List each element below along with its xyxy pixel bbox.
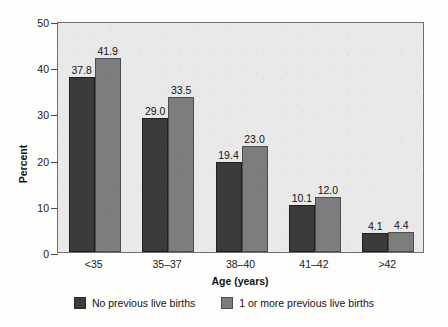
bar-value-label: 10.1 [292,192,312,204]
bar-value-label: 29.0 [145,105,165,117]
bar: 10.1 [289,205,315,252]
bar-value-label: 19.4 [218,149,238,161]
y-axis-tick-label: 20 [37,156,49,167]
bar-value-label: 4.4 [394,219,409,231]
y-axis-tick [51,69,58,70]
legend-item: 1 or more previous live births [221,297,374,309]
bar-value-label: 23.0 [244,133,264,145]
y-axis-tick-label: 50 [37,18,49,29]
bar-value-label: 41.9 [97,45,117,57]
y-axis-title: Percent [17,144,29,183]
bar: 33.5 [168,97,194,252]
legend-label: No previous live births [92,297,195,309]
bar: 37.8 [69,77,95,252]
y-axis-tick-label: 30 [37,110,49,121]
y-axis-tick [51,115,58,116]
chart-legend: No previous live births1 or more previou… [0,297,448,309]
bar: 41.9 [95,58,121,252]
bar: 23.0 [242,146,268,252]
bar: 19.4 [216,162,242,252]
bar: 12.0 [315,197,341,252]
bar-value-label: 12.0 [318,184,338,196]
bar: 4.4 [388,232,414,252]
y-axis-tick-label: 40 [37,64,49,75]
y-axis-tick-label: 0 [43,249,49,260]
legend-item: No previous live births [74,297,195,309]
x-axis-tick-label: >42 [378,258,396,270]
x-axis-tick-label: <35 [85,258,103,270]
y-axis-tick [51,254,58,255]
bar: 29.0 [142,118,168,252]
bar-value-label: 4.1 [368,220,383,232]
gray-swatch-icon [221,297,233,309]
dark-swatch-icon [74,297,86,309]
plot-area: 01020304050 37.841.929.033.519.423.010.1… [57,22,424,253]
y-axis-tick [51,208,58,209]
bar-chart-figure: Percent 01020304050 37.841.929.033.519.4… [0,0,448,327]
bar: 4.1 [362,233,388,252]
y-axis-tick [51,23,58,24]
x-axis-title: Age (years) [211,275,268,287]
x-axis-tick-label: 41–42 [299,258,328,270]
x-axis-tick-label: 38–40 [226,258,255,270]
legend-label: 1 or more previous live births [239,297,374,309]
y-axis-tick-label: 10 [37,203,49,214]
bar-value-label: 33.5 [171,84,191,96]
y-axis-tick [51,162,58,163]
x-axis-tick-label: 35–37 [152,258,181,270]
bar-value-label: 37.8 [71,64,91,76]
